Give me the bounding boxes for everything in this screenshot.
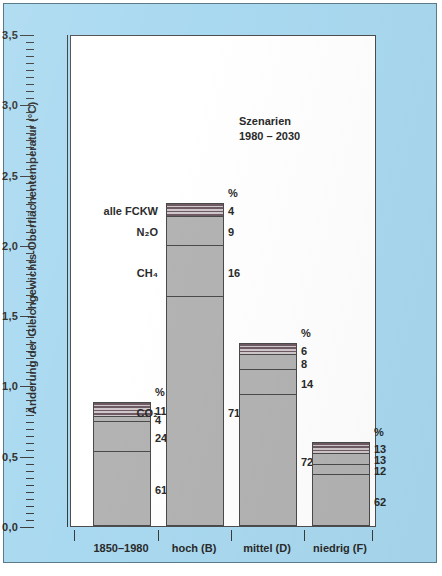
x-category-label[interactable]: niedrig (F) [313, 542, 367, 554]
y-tick-minor [26, 499, 34, 500]
segment-percent-label: 12 [374, 465, 386, 477]
bar-segment-alle-fckw[interactable] [166, 203, 224, 216]
percent-header: % [374, 426, 384, 438]
bar-hoch-b-[interactable] [166, 203, 224, 526]
bar-niedrig-f-[interactable] [312, 442, 370, 526]
y-tick-minor [26, 506, 34, 507]
bar-segment-alle-fckw[interactable] [239, 343, 297, 354]
y-axis-title: Änderung der Gleichgewichts-Oberflächent… [26, 18, 38, 498]
percent-header: % [228, 187, 238, 199]
y-tick-minor [26, 513, 34, 514]
segment-percent-label: 13 [374, 443, 386, 455]
segment-percent-label: 16 [228, 267, 240, 279]
y-tick-label: 3,5 [2, 29, 18, 41]
y-axis-line [67, 35, 68, 527]
x-axis: 1850–1980hoch (B)mittel (D)niedrig (F) [4, 527, 438, 564]
series-label-co2: CO₂ [137, 407, 158, 419]
series-label-alle-fckw: alle FCKW [104, 205, 158, 217]
figure-panel: 0,00,51,01,52,02,53,03,5 Änderung der Gl… [3, 3, 437, 563]
bar-segment-co2[interactable] [312, 474, 370, 526]
bar-segment-n2o[interactable] [239, 354, 297, 369]
plot-area: Szenarien 1980 – 2030 6124411%711694%721… [70, 35, 376, 527]
bar-segment-ch4[interactable] [239, 369, 297, 395]
bar-segment-alle-fckw[interactable] [312, 442, 370, 453]
bar-mittel-d-[interactable] [239, 343, 297, 526]
y-tick-label: 0,5 [2, 451, 18, 463]
segment-percent-label: 14 [301, 378, 313, 390]
x-tick [158, 530, 159, 541]
annotation-line-1: Szenarien [239, 114, 300, 129]
y-tick-label: 2,5 [2, 170, 18, 182]
bar-1850-1980[interactable] [93, 402, 151, 526]
segment-percent-label: 62 [374, 496, 386, 508]
y-tick-label: 1,5 [2, 310, 18, 322]
bar-segment-co2[interactable] [239, 394, 297, 526]
bar-segment-n2o[interactable] [312, 453, 370, 464]
segment-percent-label: 8 [301, 358, 307, 370]
segment-percent-label: 6 [301, 345, 307, 357]
segment-percent-label: 4 [228, 205, 234, 217]
bar-segment-ch4[interactable] [312, 464, 370, 474]
x-category-label[interactable]: hoch (B) [172, 542, 217, 554]
segment-percent-label: 9 [228, 226, 234, 238]
x-tick [304, 530, 305, 541]
x-tick [231, 530, 232, 541]
bar-segment-n2o[interactable] [166, 216, 224, 245]
x-category-label[interactable]: mittel (D) [243, 542, 291, 554]
series-label-ch4: CH₄ [137, 267, 158, 279]
x-tick [372, 530, 373, 541]
percent-header: % [301, 327, 311, 339]
segment-percent-label: 13 [374, 454, 386, 466]
annotation-line-2: 1980 – 2030 [239, 129, 300, 144]
x-tick [74, 530, 75, 541]
percent-header: % [155, 386, 165, 398]
bar-segment-ch4[interactable] [93, 421, 151, 451]
x-category-label[interactable]: 1850–1980 [93, 542, 148, 554]
bar-segment-co2[interactable] [93, 451, 151, 526]
series-label-n2o: N₂O [137, 226, 158, 238]
bar-segment-co2[interactable] [166, 296, 224, 526]
y-tick-label: 2,0 [2, 240, 18, 252]
bar-segment-ch4[interactable] [166, 245, 224, 297]
y-tick-minor [26, 520, 34, 521]
scenario-annotation: Szenarien 1980 – 2030 [239, 114, 300, 144]
y-tick-label: 1,0 [2, 380, 18, 392]
y-tick-label: 3,0 [2, 99, 18, 111]
